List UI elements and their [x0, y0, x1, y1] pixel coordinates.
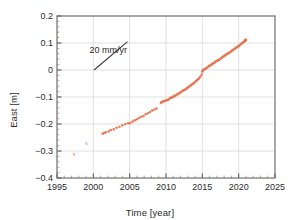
y-tick-label: 0.1 [23, 38, 53, 48]
slope-annotation-label: 20 mm/yr [89, 45, 127, 55]
gridlines [57, 16, 275, 178]
plot-area [0, 0, 300, 220]
y-tick-label: 0.2 [23, 11, 53, 21]
x-tick-label: 2005 [120, 182, 140, 192]
x-tick-label: 2000 [83, 182, 103, 192]
y-axis-title: East [m] [8, 75, 19, 145]
y-tick-label: −0.3 [23, 146, 53, 156]
x-tick-label: 2010 [156, 182, 176, 192]
y-tick-label: 0 [23, 65, 53, 75]
y-tick-label: −0.2 [23, 119, 53, 129]
chart-figure: 20 mm/yr Time [year] East [m] 1995200020… [0, 0, 300, 220]
x-tick-label: 2015 [192, 182, 212, 192]
x-tick-label: 2020 [229, 182, 249, 192]
x-tick-label: 1995 [47, 182, 67, 192]
x-axis-title: Time [year] [0, 207, 300, 218]
x-tick-label: 2025 [265, 182, 285, 192]
y-tick-label: −0.1 [23, 92, 53, 102]
y-tick-label: −0.4 [23, 173, 53, 183]
